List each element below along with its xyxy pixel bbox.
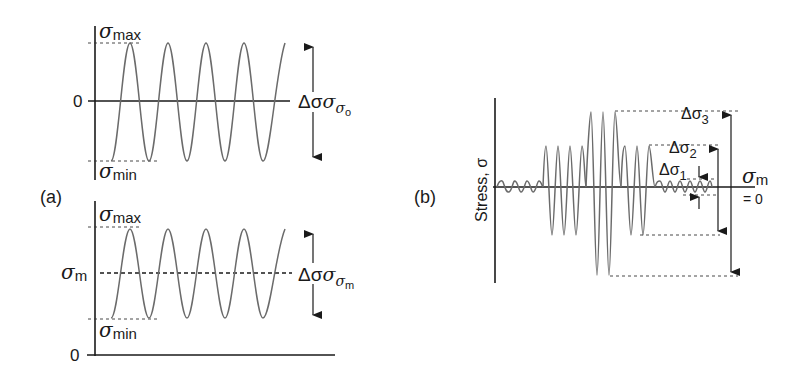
- zero-label: 0: [73, 92, 82, 111]
- stress-cycle-figure: 0 σmax σmin Δσσσo (a) 0 σm σmax σmin: [0, 0, 799, 382]
- sigma-mean-label: σm: [742, 164, 768, 188]
- dsigma2-label: Δσ2: [669, 139, 697, 161]
- medium-amplitude-wave: [543, 146, 586, 235]
- panel-a-bottom: 0 σm σmax σmin Δσσσm: [61, 201, 354, 365]
- sigma-max-label: σmax: [99, 19, 141, 43]
- y-axis-label: Stress, σ: [473, 158, 490, 222]
- sigma-min-label: σmin: [99, 159, 137, 183]
- dsigma3-label: Δσ3: [681, 105, 709, 127]
- large-amplitude-wave: [586, 112, 621, 275]
- mean-value-label: = 0: [743, 191, 763, 207]
- sigma-mean-label: σm: [61, 260, 87, 284]
- stress-range-label: Δσσσo: [298, 90, 351, 118]
- panel-a-label: (a): [40, 187, 62, 207]
- sigma-min-label: σmin: [99, 318, 137, 342]
- sine-wave: [111, 43, 285, 161]
- medium-amplitude-wave-2: [621, 146, 655, 235]
- panel-a-top: 0 σmax σmin Δσσσo: [73, 19, 351, 183]
- panel-b: Stress, σ Δσ3 Δσ2 Δσ1: [473, 98, 768, 283]
- stress-range-label: Δσσσm: [298, 263, 354, 291]
- dsigma1-label: Δσ1: [659, 161, 687, 183]
- panel-b-label: (b): [414, 187, 436, 207]
- sigma-max-label: σmax: [99, 202, 141, 226]
- zero-label: 0: [70, 346, 79, 365]
